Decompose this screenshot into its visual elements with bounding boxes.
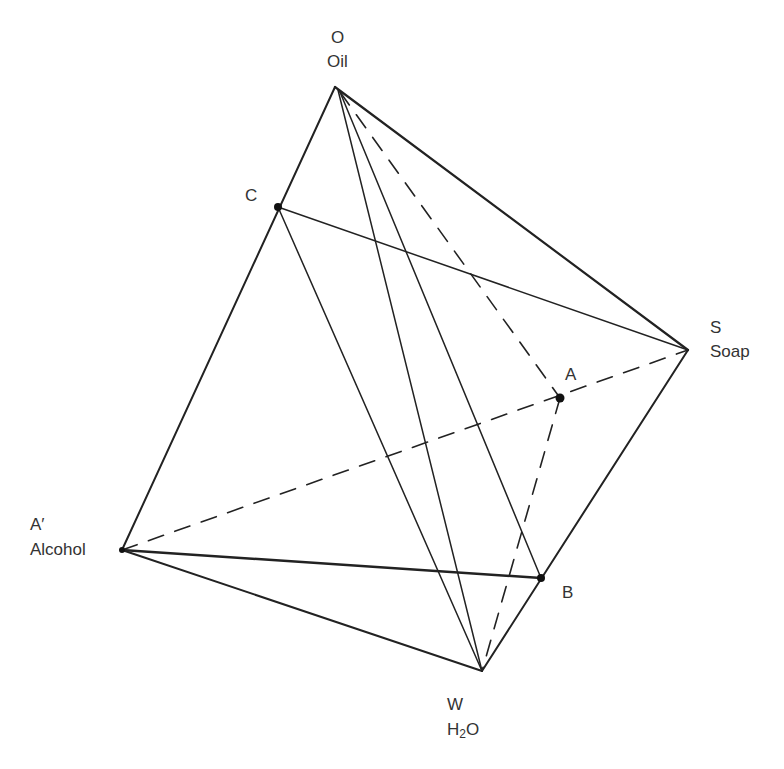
edge-O-Aprime — [122, 87, 335, 550]
line-O-W — [338, 90, 482, 671]
edge-Aprime-B — [122, 550, 541, 578]
vertex-W-letter: W — [447, 695, 463, 715]
point-A-label: A — [565, 365, 576, 385]
vertex-W-name: H2O — [447, 720, 479, 744]
point-C-dot — [274, 203, 282, 211]
edge-Aprime-W — [122, 550, 482, 671]
tetrahedron-diagram — [0, 0, 784, 769]
dashed-O-A — [340, 92, 560, 398]
point-B-label: B — [562, 583, 573, 603]
dashed-Aprime-S — [122, 350, 688, 550]
line-C-W — [278, 207, 482, 671]
line-C-S — [278, 207, 688, 350]
dashed-A-W — [482, 398, 560, 671]
vertex-Aprime-name: Alcohol — [30, 540, 86, 560]
vertex-Aprime-dot — [119, 547, 125, 553]
vertex-O-letter: O — [331, 28, 344, 48]
vertex-Aprime-letter: A′ — [30, 515, 45, 535]
edge-O-S — [335, 87, 688, 350]
vertex-S-letter: S — [710, 318, 721, 338]
point-A-dot — [556, 394, 565, 403]
vertex-S-name: Soap — [710, 342, 750, 362]
point-C-label: C — [245, 186, 257, 206]
point-B-dot — [537, 574, 545, 582]
vertex-O-name: Oil — [327, 52, 348, 72]
